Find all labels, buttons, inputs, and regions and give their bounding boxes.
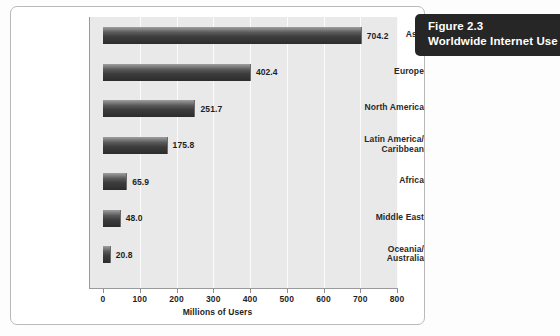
x-tick-mark [287, 289, 288, 293]
x-tick-label: 100 [133, 294, 147, 304]
category-label: Europe [350, 67, 424, 77]
bar-value-label: 402.4 [256, 67, 278, 77]
x-tick-mark [103, 289, 104, 293]
figure-frame: AsiaEuropeNorth AmericaLatin America/Car… [10, 6, 425, 325]
x-axis-title: Millions of Users [11, 307, 424, 317]
figure-number-label: Figure 2.3 [428, 19, 560, 34]
bar-value-label: 48.0 [126, 213, 143, 223]
x-tick-label: 700 [353, 294, 367, 304]
category-label: Middle East [350, 213, 424, 223]
category-label-line: North America [350, 103, 424, 113]
figure-title-text: Worldwide Internet Use [428, 34, 560, 49]
category-label: Africa [350, 176, 424, 186]
bar [103, 137, 168, 154]
x-tick-mark [140, 289, 141, 293]
bar [103, 64, 251, 81]
bar-value-label: 20.8 [116, 250, 133, 260]
bar-value-label: 704.2 [367, 31, 389, 41]
category-label: Oceania/Australia [350, 245, 424, 264]
bar [103, 210, 121, 227]
bar-value-label: 65.9 [132, 177, 149, 187]
x-tick-mark [360, 289, 361, 293]
x-tick-label: 600 [316, 294, 330, 304]
bar [103, 27, 362, 44]
x-tick-label: 800 [390, 294, 404, 304]
bar [103, 100, 195, 117]
gridline-200 [177, 17, 178, 289]
category-label-line: Europe [350, 67, 424, 77]
x-tick-label: 0 [101, 294, 106, 304]
gridline-600 [324, 17, 325, 289]
category-label: North America [350, 103, 424, 113]
category-label-line: Caribbean [350, 145, 424, 155]
bar [103, 246, 111, 263]
category-label-line: Australia [350, 254, 424, 264]
x-tick-label: 200 [169, 294, 183, 304]
bar [103, 173, 127, 190]
figure-title-badge: Figure 2.3 Worldwide Internet Use [415, 14, 560, 56]
figure-screenshot: AsiaEuropeNorth AmericaLatin America/Car… [0, 0, 560, 336]
gridline-500 [287, 17, 288, 289]
x-tick-mark [324, 289, 325, 293]
x-tick-mark [177, 289, 178, 293]
x-tick-mark [213, 289, 214, 293]
category-label: Latin America/Caribbean [350, 135, 424, 154]
category-label-line: Middle East [350, 213, 424, 223]
category-label-line: Africa [350, 176, 424, 186]
x-tick-label: 300 [206, 294, 220, 304]
gridline-400 [250, 17, 251, 289]
x-tick-mark [250, 289, 251, 293]
bar-value-label: 175.8 [173, 140, 195, 150]
x-tick-label: 500 [280, 294, 294, 304]
y-axis-line [89, 17, 90, 289]
gridline-300 [213, 17, 214, 289]
bar-value-label: 251.7 [200, 104, 222, 114]
x-tick-mark [397, 289, 398, 293]
x-tick-label: 400 [243, 294, 257, 304]
